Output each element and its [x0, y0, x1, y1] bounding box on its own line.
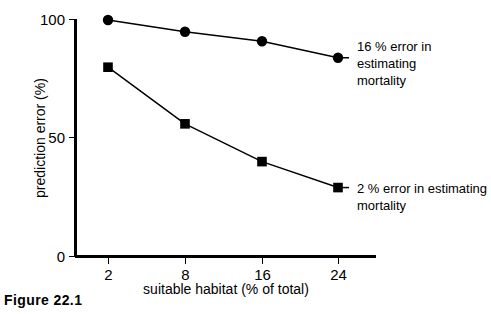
y-axis-ticks	[69, 20, 75, 257]
x-tick-label-8: 8	[165, 267, 206, 282]
series-annotation-16-percent: 16 % error in estimating mortality	[357, 38, 491, 89]
series-markers-squares	[103, 62, 343, 192]
series-annotation-16-percent-line1: 16 % error in estimating	[357, 38, 491, 72]
series-annotation-16-percent-line2: mortality	[357, 72, 491, 89]
x-axis-ticks	[109, 257, 339, 264]
figure-container: 100 50 0 2 8 16 24 suitable habitat (% o…	[0, 0, 491, 314]
figure-caption: Figure 22.1	[4, 292, 82, 308]
series-annotation-2-percent-line2: mortality	[357, 197, 491, 214]
data-point-square	[103, 62, 113, 72]
annotation-leaders	[338, 58, 349, 188]
y-tick-label-0: 0	[28, 249, 65, 264]
data-point-circle	[257, 36, 267, 46]
series-annotation-2-percent: 2 % error in estimating mortality	[357, 180, 491, 214]
y-tick-label-100: 100	[28, 12, 65, 27]
series-line-squares	[108, 67, 338, 187]
x-tick-label-16: 16	[242, 267, 283, 282]
data-point-circle	[103, 15, 113, 25]
data-point-square	[180, 119, 190, 129]
y-axis-title: prediction error (%)	[32, 58, 48, 218]
series-annotation-2-percent-line1: 2 % error in estimating	[357, 180, 491, 197]
x-tick-label-24: 24	[318, 267, 359, 282]
data-point-circle	[180, 27, 190, 37]
series-markers-circles	[103, 15, 343, 63]
series-line-circles	[108, 20, 338, 58]
x-axis-title: suitable habitat (% of total)	[75, 281, 377, 297]
chart-plot-area: 100 50 0 2 8 16 24 suitable habitat (% o…	[0, 0, 491, 314]
data-point-square	[257, 157, 267, 167]
x-tick-label-2: 2	[88, 267, 129, 282]
